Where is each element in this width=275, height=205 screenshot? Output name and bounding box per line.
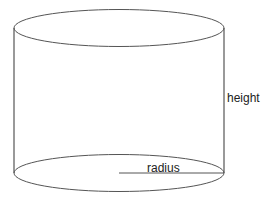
cylinder-diagram: height radius bbox=[0, 0, 275, 205]
cylinder-top-ellipse bbox=[14, 10, 224, 47]
radius-label: radius bbox=[147, 161, 180, 175]
height-label: height bbox=[227, 91, 260, 105]
